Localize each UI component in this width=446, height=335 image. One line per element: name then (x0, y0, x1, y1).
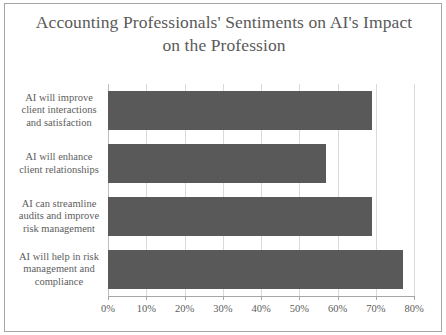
bar-series (108, 84, 414, 296)
x-tick-label: 60% (318, 302, 358, 316)
x-tick-label: 50% (279, 302, 319, 316)
y-category-label: AI will help in risk management and comp… (13, 243, 105, 296)
bar-row (108, 190, 414, 243)
tick-mark-80% (414, 296, 415, 300)
chart-container: Accounting Professionals' Sentiments on … (4, 3, 442, 332)
x-tick-label: 40% (241, 302, 281, 316)
chart-title: Accounting Professionals' Sentiments on … (19, 11, 429, 57)
gridline-80% (414, 84, 415, 296)
chart-title-line-2: on the Profession (19, 34, 429, 57)
x-tick-label: 20% (165, 302, 205, 316)
x-tick-label: 80% (394, 302, 434, 316)
tick-mark-50% (299, 296, 300, 300)
chart-title-line-1: Accounting Professionals' Sentiments on … (19, 11, 429, 34)
tick-mark-30% (223, 296, 224, 300)
y-axis-category-labels: AI will improve client interactions and … (13, 84, 105, 296)
bar[interactable] (108, 144, 326, 183)
tick-mark-10% (146, 296, 147, 300)
bar-row (108, 84, 414, 137)
y-category-label: AI can streamline audits and improve ris… (13, 190, 105, 243)
tick-mark-70% (376, 296, 377, 300)
tick-mark-0% (108, 296, 109, 300)
x-axis-tick-labels: 0%10%20%30%40%50%60%70%80% (5, 302, 443, 318)
tick-mark-60% (338, 296, 339, 300)
y-category-label: AI will improve client interactions and … (13, 84, 105, 137)
bar[interactable] (108, 250, 403, 289)
bar-row (108, 243, 414, 296)
x-tick-label: 0% (88, 302, 128, 316)
tick-mark-20% (185, 296, 186, 300)
x-axis-tick-marks (108, 296, 414, 300)
bar-row (108, 137, 414, 190)
bar[interactable] (108, 197, 372, 236)
x-tick-label: 70% (356, 302, 396, 316)
x-tick-label: 10% (126, 302, 166, 316)
y-category-label: AI will enhance client relationships (13, 137, 105, 190)
bar[interactable] (108, 91, 372, 130)
tick-mark-40% (261, 296, 262, 300)
plot-area (108, 84, 414, 296)
x-tick-label: 30% (203, 302, 243, 316)
